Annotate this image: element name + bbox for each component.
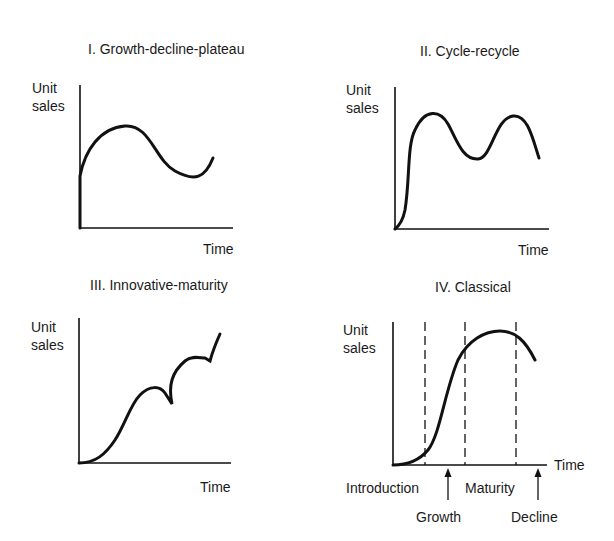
sales-curve [395,113,539,229]
sales-curve [393,331,535,465]
y-axis-label-line2: sales [31,337,64,353]
phase-label-decline: Decline [511,509,558,525]
y-axis-label-line2: sales [346,100,379,116]
panel-classical [393,322,547,500]
arrow-up-icon [445,468,452,477]
x-axis-label: Time [200,479,231,495]
phase-label-maturity: Maturity [465,480,515,496]
phase-label-introduction: Introduction [346,480,419,496]
panel-title: I. Growth-decline-plateau [88,41,244,57]
panel-title: IV. Classical [435,279,511,295]
panel-innovative-maturity [79,318,231,463]
y-axis-label-line1: Unit [343,322,368,338]
panel-growth-decline-plateau [80,85,233,228]
sales-curve [79,334,220,463]
x-axis-label: Time [518,242,549,258]
panel-title: II. Cycle-recycle [420,43,520,59]
axes [79,318,231,463]
y-axis-label-line2: sales [343,340,376,356]
x-axis-label: Time [203,241,234,257]
panel-cycle-recycle [395,87,549,229]
diagram-canvas [0,0,614,541]
panel-title: III. Innovative-maturity [90,277,228,293]
x-axis-label: Time [554,457,585,473]
y-axis-label-line2: sales [32,98,65,114]
y-axis-label-line1: Unit [31,319,56,335]
y-axis-label-line1: Unit [32,80,57,96]
phase-label-growth: Growth [416,509,461,525]
arrow-up-icon [535,468,542,477]
y-axis-label-line1: Unit [346,82,371,98]
axes [80,85,233,228]
sales-curve [80,126,213,228]
